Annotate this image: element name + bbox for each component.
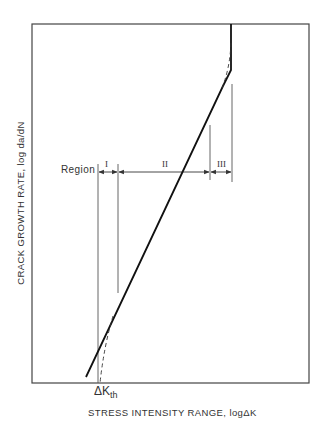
region-label: Region [61,164,95,175]
dashed-threshold-curve [100,316,113,383]
region-i-label: I [105,159,108,169]
plot-frame [32,24,309,383]
threshold-subscript: th [110,390,118,400]
solid-growth-curve [86,24,231,377]
fatigue-crack-growth-chart [0,0,327,430]
delta-k-text: ΔK [94,384,110,398]
y-axis-label: CRACK GROWTH RATE, log da/dN [15,121,26,285]
x-axis-label: STRESS INTENSITY RANGE, logΔK [88,407,257,418]
region-ii-label: II [162,159,168,169]
delta-k-threshold-label: ΔKth [94,384,118,400]
dashed-fracture-curve [222,43,231,88]
region-iii-label: III [217,159,226,169]
